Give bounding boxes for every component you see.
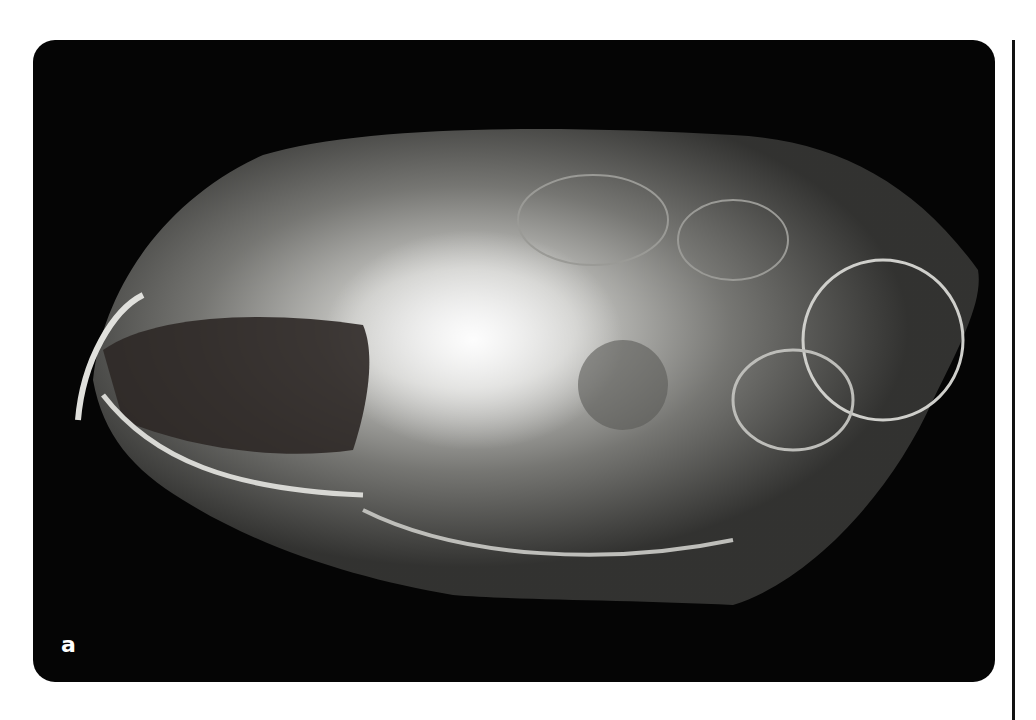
- column-divider-line: [1012, 40, 1015, 720]
- skull-radiograph: [33, 40, 995, 682]
- xray-image-panel: a: [33, 40, 995, 682]
- panel-label: a: [61, 632, 76, 657]
